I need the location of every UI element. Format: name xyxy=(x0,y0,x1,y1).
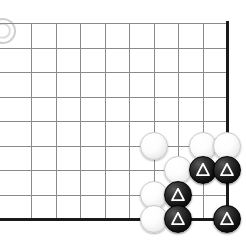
triangle-marker-icon xyxy=(165,206,191,232)
go-board-diagram: Go board corner diagram xyxy=(0,0,246,246)
triangle-marker-icon xyxy=(190,157,216,183)
black-stone[interactable] xyxy=(213,205,241,233)
triangle-marker-icon xyxy=(214,157,240,183)
board-stones xyxy=(0,0,246,246)
black-stone[interactable] xyxy=(164,205,192,233)
black-stone[interactable] xyxy=(213,156,241,184)
white-stone[interactable] xyxy=(140,132,168,160)
white-stone[interactable] xyxy=(164,156,192,184)
triangle-marker-icon xyxy=(165,182,191,208)
triangle-marker-icon xyxy=(214,206,240,232)
